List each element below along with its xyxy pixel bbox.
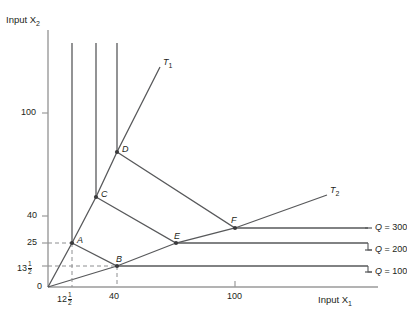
x-axis-title: Input X1: [318, 295, 352, 307]
point-label-D: D: [122, 145, 129, 154]
expansion-path-T1: [48, 67, 160, 287]
point-label-E: E: [174, 232, 180, 241]
point-label-A: A: [77, 236, 83, 245]
curve-label-T1: T1: [163, 58, 172, 69]
point-marker-E: [174, 241, 178, 245]
y-tick-label-25: 25: [27, 238, 37, 247]
curve-label-T2: T2: [330, 186, 339, 197]
isoquant-label-q100: Q = 100: [375, 267, 407, 276]
y-tick-label-0: 0: [37, 282, 42, 291]
point-marker-D: [115, 150, 119, 154]
y-tick-label-100: 100: [21, 108, 36, 117]
y-tick-label-40: 40: [27, 211, 37, 220]
point-marker-F: [233, 226, 237, 230]
point-marker-C: [94, 195, 98, 199]
point-label-B: B: [116, 255, 122, 264]
isoquant-q200-to-label: [368, 243, 372, 250]
point-marker-A: [70, 241, 74, 245]
y-axis-title: Input X​2: [6, 15, 40, 27]
x-tick-label-12-half: 1212: [57, 292, 72, 306]
point-label-C: C: [101, 190, 108, 199]
point-label-F: F: [231, 216, 237, 225]
x-tick-label-40: 40: [109, 292, 119, 301]
isoquant-label-q200: Q = 200: [375, 245, 407, 254]
x-tick-label-100: 100: [227, 292, 242, 301]
isoquant-label-q300: Q = 300: [375, 223, 407, 232]
y-tick-label-13-half: 1312: [17, 261, 32, 275]
point-marker-B: [115, 264, 119, 268]
isoquant-q100-to-label: [368, 266, 372, 272]
